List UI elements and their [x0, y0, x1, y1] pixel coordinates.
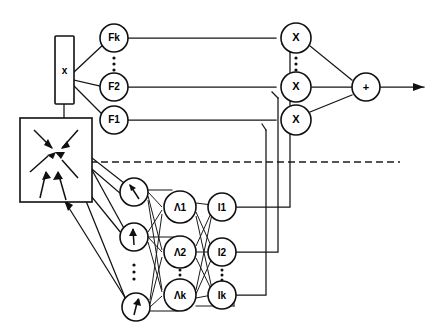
rule-node-label: Λ1	[174, 202, 187, 213]
rule-node-Lk[interactable]: Λk	[164, 279, 196, 311]
summation-node[interactable]: +	[352, 73, 380, 101]
membership-node-F2[interactable]: F2	[100, 73, 128, 101]
diagram-canvas: x Fk	[0, 0, 436, 334]
multiplier-to-sum-wires	[310, 46, 352, 112]
output-arrow	[380, 83, 424, 91]
neuro-fuzzy-diagram: x Fk	[0, 0, 436, 334]
input-vector-label: x	[62, 65, 68, 76]
membership-node-label: F1	[108, 114, 120, 125]
sensor-node-1[interactable]	[120, 178, 148, 206]
membership-node-label: F2	[108, 81, 120, 92]
multiplier-node-1[interactable]: X	[281, 23, 311, 53]
multiplier-label: X	[292, 31, 300, 43]
multiplier-ellipsis	[294, 56, 297, 71]
inference-node-I1[interactable]: I1	[208, 193, 236, 221]
rule-node-L2[interactable]: Λ2	[164, 236, 196, 268]
membership-to-multiplier-wires	[124, 38, 276, 120]
inference-node-label: I1	[218, 202, 227, 213]
membership-node-F1[interactable]: F1	[100, 106, 128, 134]
rule-node-label: Λk	[174, 290, 187, 301]
multiplier-label: X	[292, 113, 300, 125]
multiplier-node-2[interactable]: X	[281, 72, 311, 102]
inference-node-label: Ik	[218, 290, 227, 301]
inference-feedback-wires	[196, 44, 290, 306]
rule-node-label: Λ2	[174, 247, 187, 258]
rule-node-L1[interactable]: Λ1	[164, 191, 196, 223]
membership-node-Fk[interactable]: Fk	[100, 24, 128, 52]
input-to-membership-wires	[74, 44, 104, 116]
inference-ellipsis	[221, 269, 224, 282]
inference-node-Ik[interactable]: Ik	[208, 281, 236, 309]
sensor-rule-mesh	[148, 192, 162, 307]
multiplier-node-3[interactable]: X	[281, 105, 311, 135]
summation-label: +	[363, 81, 369, 93]
environment-block[interactable]	[20, 118, 92, 202]
input-vector-box[interactable]: x	[55, 36, 74, 104]
sensor-node-3[interactable]	[122, 293, 150, 321]
inference-node-I2[interactable]: I2	[208, 238, 236, 266]
multiplier-label: X	[292, 80, 300, 92]
membership-ellipsis	[112, 56, 115, 71]
sensor-node-2[interactable]	[120, 223, 148, 251]
inference-node-label: I2	[218, 247, 227, 258]
sensor-ellipsis	[132, 263, 135, 280]
membership-node-label: Fk	[108, 32, 120, 43]
